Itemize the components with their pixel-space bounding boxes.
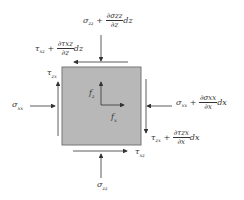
top-normal-label: σzz + ∂σzz∂zdz bbox=[83, 12, 133, 29]
left-normal-label: σxx bbox=[12, 100, 23, 111]
stress-element bbox=[62, 67, 141, 145]
bottom-normal-label: σzz bbox=[97, 180, 108, 191]
body-force-z-label: fz bbox=[89, 88, 95, 99]
body-force-x-label: fx bbox=[111, 112, 117, 123]
top-shear-label: τxz + ∂τxz∂zdz bbox=[35, 40, 83, 57]
right-normal-label: σxx + ∂σxx∂xdx bbox=[176, 94, 227, 111]
right-shear-label: τzx + ∂τzx∂xdx bbox=[151, 129, 199, 146]
left-shear-label: τzx bbox=[47, 68, 57, 79]
bottom-shear-label: τxz bbox=[135, 147, 145, 158]
